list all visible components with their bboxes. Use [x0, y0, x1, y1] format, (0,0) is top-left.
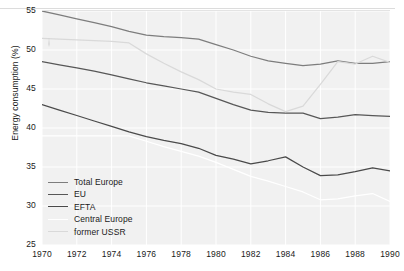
- y-axis-tick-25: 25: [6, 239, 36, 249]
- y-axis-tick-40: 40: [6, 122, 36, 132]
- legend-item-former-ussr[interactable]: former USSR: [48, 226, 133, 238]
- legend-item-eu[interactable]: EU: [48, 188, 133, 200]
- legend-swatch-icon: [48, 206, 68, 207]
- y-axis-tick-30: 30: [6, 200, 36, 210]
- legend-item-total-europe[interactable]: Total Europe: [48, 176, 133, 188]
- y-axis-tick-50: 50: [6, 44, 36, 54]
- legend-label: EFTA: [74, 203, 96, 212]
- y-axis-tick-55: 55: [6, 5, 36, 15]
- chart-legend: Total EuropeEUEFTACentral Europeformer U…: [48, 176, 133, 238]
- legend-label: Central Europe: [74, 215, 133, 224]
- legend-item-central-europe[interactable]: Central Europe: [48, 213, 133, 225]
- legend-swatch-icon: [48, 219, 68, 220]
- y-axis-tick-45: 45: [6, 83, 36, 93]
- y-axis-tick-35: 35: [6, 161, 36, 171]
- legend-swatch-icon: [48, 182, 68, 183]
- legend-label: EU: [74, 190, 86, 199]
- y-axis-tick-labels: 25303540455055: [8, 0, 36, 271]
- legend-item-efta[interactable]: EFTA: [48, 201, 133, 213]
- x-axis-tick-labels: 1970197219741976197819801982198419861988…: [0, 249, 395, 265]
- figure-top-rule: [0, 8, 395, 9]
- legend-label: Total Europe: [74, 178, 123, 187]
- stray-mark-icon: [46, 38, 52, 47]
- legend-label: former USSR: [74, 228, 126, 237]
- legend-swatch-icon: [48, 231, 68, 232]
- legend-swatch-icon: [48, 194, 68, 195]
- x-axis-tick-1990: 1990: [370, 249, 404, 259]
